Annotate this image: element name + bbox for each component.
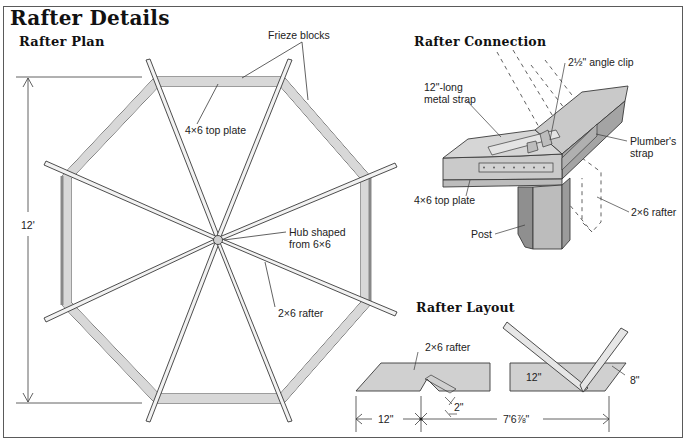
hub-label-line2: from 6×6: [289, 238, 331, 250]
frieze-blocks-label: Frieze blocks: [268, 29, 330, 41]
rafter-layout-title: Rafter Layout: [416, 300, 515, 315]
plumbers-strap-label-line2: strap: [630, 147, 653, 159]
layout-rafter-label: 2×6 rafter: [425, 341, 470, 353]
plumbers-strap-label-line1: Plumber's: [630, 135, 676, 147]
angle-clip-label: 2½" angle clip: [568, 56, 634, 68]
rafter-layout-drawing: [356, 322, 628, 432]
dimension-12ft-label: 12': [21, 219, 35, 231]
page-title: Rafter Details: [10, 6, 170, 30]
connection-rafter-label: 2×6 rafter: [631, 206, 676, 218]
square-12in-label: 12": [526, 371, 541, 383]
hub-label-line1: Hub shaped: [289, 226, 346, 238]
dimension-2in-label: 2": [454, 401, 464, 413]
connection-top-plate-label: 4×6 top plate: [414, 194, 475, 206]
plan-rafter-label: 2×6 rafter: [278, 307, 323, 319]
rafter-connection-drawing: [443, 50, 629, 249]
rafter-plan-title: Rafter Plan: [19, 34, 105, 49]
dimension-12in-label: 12": [378, 413, 393, 425]
post-label: Post: [471, 228, 492, 240]
plan-top-plate-label: 4×6 top plate: [185, 124, 246, 136]
rafter-connection-title: Rafter Connection: [414, 34, 546, 49]
metal-strap-label-line1: 12"-long: [424, 81, 463, 93]
metal-strap-label-line2: metal strap: [424, 93, 476, 105]
square-8in-label: 8": [630, 374, 640, 386]
dimension-total-label: 7'6⅞": [503, 413, 529, 425]
